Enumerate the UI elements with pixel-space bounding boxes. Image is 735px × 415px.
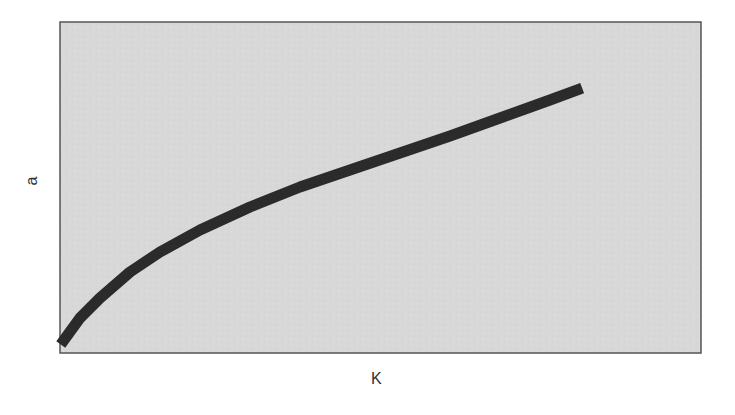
- x-axis-label: K: [371, 370, 382, 388]
- plot-area: [60, 22, 701, 353]
- line-chart: [0, 0, 735, 415]
- y-axis-label: a: [23, 177, 41, 186]
